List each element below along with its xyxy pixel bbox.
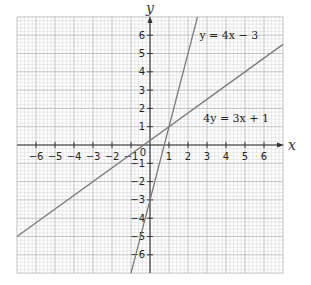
y-tick-label: −2 (130, 176, 145, 187)
y-tick-label: 3 (139, 85, 145, 96)
y-tick-label: −5 (130, 231, 145, 242)
x-tick-label: 3 (204, 151, 210, 162)
y-tick-label: 2 (139, 103, 145, 114)
y-tick-label: −1 (130, 158, 145, 169)
axes (17, 16, 284, 273)
equation-label: 4y = 3x + 1 (203, 112, 269, 125)
x-tick-label: 6 (261, 151, 267, 162)
y-axis-label: y (145, 0, 155, 16)
y-tick-label: 6 (139, 30, 145, 41)
x-tick-label: 2 (185, 151, 191, 162)
x-tick-label: 1 (166, 151, 172, 162)
origin-label: 0 (140, 147, 146, 158)
y-tick-label: −6 (130, 249, 145, 260)
y-tick-label: 5 (139, 48, 145, 59)
x-axis-label: x (288, 137, 296, 153)
x-tick-label: −3 (86, 151, 101, 162)
coordinate-plane: −6−5−4−3−2−10123456−6−5−4−3−2−1123456 xy… (0, 0, 311, 285)
x-tick-label: −4 (67, 151, 82, 162)
y-tick-label: 4 (139, 66, 145, 77)
x-tick-label: −5 (48, 151, 63, 162)
equation-label: y = 4x − 3 (198, 29, 258, 42)
y-tick-label: 1 (139, 121, 145, 132)
y-tick-label: −3 (130, 194, 145, 205)
y-tick-label: −4 (130, 213, 145, 224)
x-tick-label: 5 (242, 151, 248, 162)
x-tick-label: −6 (29, 151, 44, 162)
x-tick-label: −2 (105, 151, 120, 162)
x-tick-label: 4 (223, 151, 229, 162)
